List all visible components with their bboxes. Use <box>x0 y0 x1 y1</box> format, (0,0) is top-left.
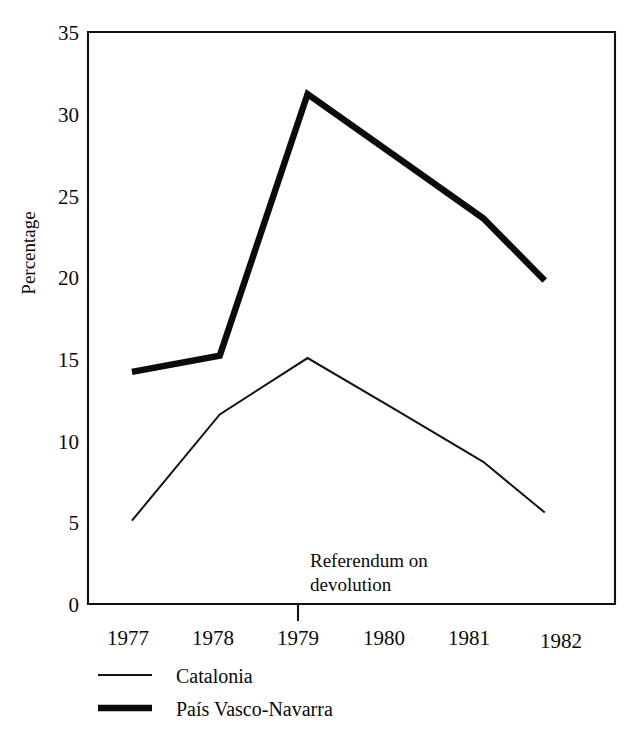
chart-figure: 35 30 25 20 15 10 5 0 Percentage 1977 19… <box>0 0 637 738</box>
annotation-line-1: Referendum on <box>310 550 428 571</box>
y-tick-label-30: 30 <box>58 103 79 127</box>
y-tick-label-0: 0 <box>69 593 80 617</box>
y-tick-label-5: 5 <box>69 511 80 535</box>
x-tick-label-1977: 1977 <box>107 626 149 650</box>
x-tick-label-1982: 1982 <box>540 629 582 653</box>
x-tick-label-1981: 1981 <box>448 626 490 650</box>
x-tick-label-1978: 1978 <box>192 626 234 650</box>
x-tick-label-1980: 1980 <box>363 626 405 650</box>
y-axis-title: Percentage <box>18 211 39 294</box>
y-tick-label-35: 35 <box>58 21 79 45</box>
x-tick-label-1979: 1979 <box>277 626 319 650</box>
y-tick-label-10: 10 <box>58 430 79 454</box>
line-chart: 35 30 25 20 15 10 5 0 Percentage 1977 19… <box>0 0 637 738</box>
y-tick-label-20: 20 <box>58 266 79 290</box>
legend-label-pais-vasco-navarra: País Vasco-Navarra <box>176 698 333 720</box>
annotation-line-2: devolution <box>310 574 392 595</box>
y-tick-label-25: 25 <box>58 185 79 209</box>
legend-label-catalonia: Catalonia <box>176 665 253 687</box>
y-tick-label-15: 15 <box>58 348 79 372</box>
